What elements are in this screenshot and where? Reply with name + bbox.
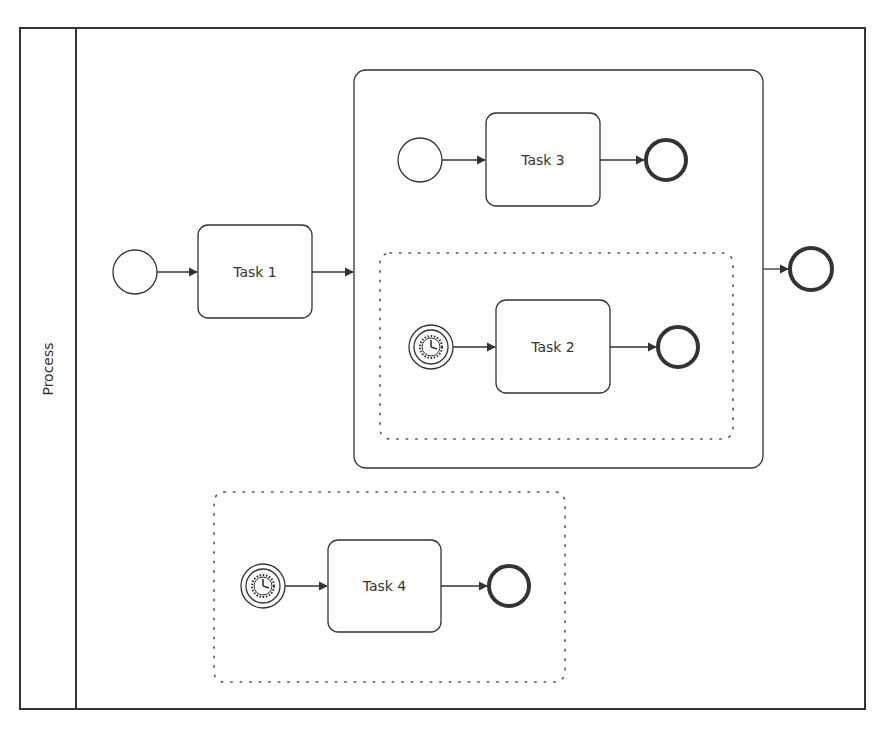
pool-label: Process <box>20 29 76 709</box>
bpmn-canvas <box>0 0 886 734</box>
event-subprocess-end-event[interactable] <box>658 327 698 367</box>
pool[interactable] <box>20 28 865 709</box>
timer-start-event[interactable] <box>241 564 285 608</box>
task-2-label: Task 2 <box>496 300 610 393</box>
subprocess-end-event[interactable] <box>646 140 686 180</box>
start-event[interactable] <box>113 250 157 294</box>
task-3-label: Task 3 <box>486 113 600 206</box>
event-subprocess-end-event[interactable] <box>489 566 529 606</box>
timer-start-event[interactable] <box>409 325 453 369</box>
task-1-label: Task 1 <box>198 225 312 318</box>
subprocess-start-event[interactable] <box>398 138 442 182</box>
task-4-label: Task 4 <box>328 540 441 632</box>
end-event[interactable] <box>790 248 832 290</box>
pool-label-text: Process <box>40 342 56 395</box>
